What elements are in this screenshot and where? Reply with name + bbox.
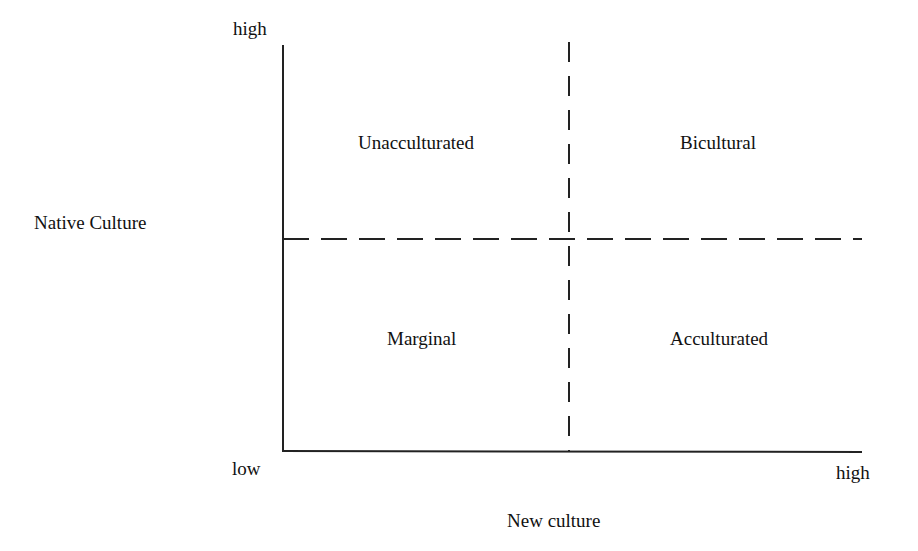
quadrant-marginal: Marginal [387, 328, 456, 350]
x-axis-title: New culture [507, 510, 600, 532]
x-axis-high-label: high [836, 462, 870, 484]
y-axis-high-label: high [233, 18, 267, 40]
y-axis-title: Native Culture [34, 212, 146, 234]
x-axis-low-label: low [232, 458, 261, 480]
quadrant-unacculturated: Unacculturated [358, 132, 474, 154]
quadrant-bicultural: Bicultural [680, 132, 756, 154]
quadrant-acculturated: Acculturated [670, 328, 768, 350]
quadrant-diagram [0, 0, 918, 551]
x-axis [282, 451, 862, 452]
